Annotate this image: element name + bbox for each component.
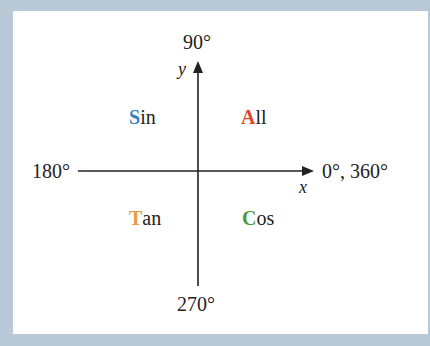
- angle-180-label: 180°: [32, 161, 70, 181]
- angle-0-360-label: 0°, 360°: [322, 161, 388, 181]
- quadrant-all-initial: A: [241, 106, 255, 128]
- x-axis-label: x: [299, 178, 307, 196]
- quadrant-all-rest: ll: [255, 106, 266, 128]
- quadrant-cos-rest: os: [256, 207, 274, 229]
- quadrant-tan-rest: an: [142, 207, 161, 229]
- quadrant-tan: Tan: [129, 208, 161, 228]
- quadrant-tan-initial: T: [129, 207, 142, 229]
- quadrant-cos-initial: C: [242, 207, 256, 229]
- quadrant-all: All: [241, 107, 267, 127]
- y-axis-label: y: [178, 60, 186, 78]
- angle-270-label: 270°: [177, 294, 215, 314]
- angle-90-label: 90°: [183, 32, 211, 52]
- quadrant-cos: Cos: [242, 208, 274, 228]
- y-arrow-icon: [193, 61, 203, 73]
- quadrant-sin-rest: in: [140, 106, 156, 128]
- quadrant-sin: Sin: [129, 107, 156, 127]
- quadrant-sin-initial: S: [129, 106, 140, 128]
- x-arrow-icon: [302, 166, 314, 176]
